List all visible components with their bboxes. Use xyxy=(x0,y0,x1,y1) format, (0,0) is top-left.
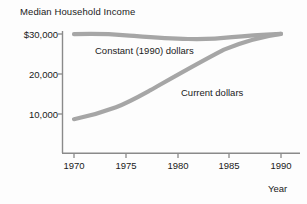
chart-figure: Median Household Income $30,000 20,000 1… xyxy=(0,0,307,204)
axes xyxy=(62,31,300,153)
plot-area xyxy=(0,0,307,204)
series-line-current-dollars xyxy=(74,34,281,119)
